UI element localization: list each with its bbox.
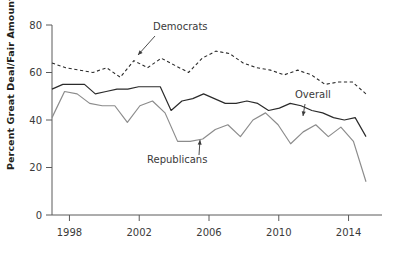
y-axis-label: Percent Great Deal/Fair Amount [5,0,16,170]
x-tick-label: 1998 [57,227,82,238]
y-tick-label: 80 [29,20,42,31]
series-annotation-democrats: Democrats [153,21,208,32]
x-tick-label: 2002 [126,227,151,238]
annotation-arrowhead [302,111,306,116]
series-line-republicans [52,92,366,182]
x-tick-label: 2010 [266,227,291,238]
data-series-group [52,51,366,182]
x-tick-label: 2006 [196,227,221,238]
annotation-group: DemocratsOverallRepublicans [138,21,331,165]
series-annotation-republicans: Republicans [147,154,207,165]
x-tick-label: 2014 [336,227,361,238]
annotation-arrowhead [198,140,202,145]
y-axis-ticks: 020406080 [29,20,52,221]
series-annotation-overall: Overall [295,89,331,100]
series-line-democrats [52,51,366,94]
y-tick-label: 0 [36,210,42,221]
y-tick-label: 40 [29,115,42,126]
x-axis-ticks: 19982002200620102014 [57,215,362,238]
y-tick-label: 60 [29,67,42,78]
chart-canvas: Percent Great Deal/Fair Amount 020406080… [0,0,397,254]
line-chart: Percent Great Deal/Fair Amount 020406080… [0,0,397,254]
y-tick-label: 20 [29,162,42,173]
